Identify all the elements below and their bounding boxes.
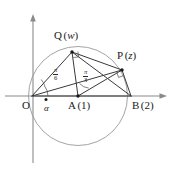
x-axis-arrow-icon [160, 93, 168, 99]
label-point-A: A(1) [68, 100, 90, 111]
segment-O-Q [32, 52, 72, 96]
label-point-B: B(2) [132, 100, 154, 111]
label-B-name: B [132, 99, 139, 111]
point-dot-Q [70, 50, 73, 53]
label-P-name: P [117, 49, 123, 61]
label-A-value: (1) [77, 99, 90, 111]
label-angle-pi-over-3: π 3 [83, 69, 88, 84]
pi-over-3-denominator: 3 [83, 77, 88, 84]
segment-Q-P [72, 52, 122, 70]
pi-over-6-numerator: π [53, 67, 58, 74]
pi-over-3-numerator: π [83, 69, 88, 76]
angle-arc-alpha [45, 86, 49, 96]
label-angle-pi-over-6: π 6 [53, 67, 58, 82]
point-dot-P [120, 68, 123, 71]
label-angle-alpha: α [44, 104, 49, 113]
point-dot-alpha-marker [45, 98, 48, 101]
label-point-Q: Q(w) [54, 30, 78, 41]
label-Q-close-paren: ) [74, 29, 78, 41]
segment-Q-A [72, 52, 78, 96]
label-P-close-paren: ) [133, 49, 137, 61]
point-dot-A [76, 94, 79, 97]
label-point-O: O [22, 100, 30, 111]
y-axis-arrow-icon [30, 14, 36, 22]
label-Q-name: Q [54, 29, 62, 41]
label-A-name: A [68, 99, 76, 111]
label-B-value: (2) [141, 99, 154, 111]
figure-container: Q(w) P(z) O A(1) B(2) α π 6 π 3 [0, 0, 173, 170]
label-point-P: P(z) [117, 50, 136, 61]
geometry-figure [0, 0, 173, 170]
pi-over-6-denominator: 6 [53, 75, 58, 82]
